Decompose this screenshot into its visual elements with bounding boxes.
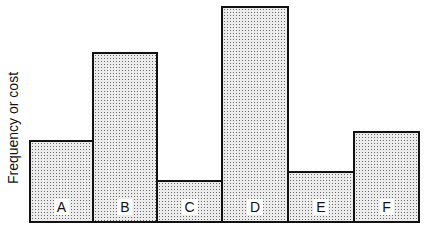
bar-label-b: B <box>117 199 132 215</box>
bar-label-e: E <box>313 199 328 215</box>
bar-label-d: D <box>247 199 263 215</box>
bar-e: E <box>287 171 355 223</box>
bar-chart: Frequency or cost ABCDEF <box>0 0 424 230</box>
bar-d: D <box>221 6 289 223</box>
bar-a: A <box>29 140 94 223</box>
bar-label-f: F <box>379 199 394 215</box>
y-axis-label: Frequency or cost <box>5 72 21 184</box>
bar-b: B <box>92 52 158 223</box>
bar-f: F <box>353 131 420 223</box>
bar-label-a: A <box>54 199 69 215</box>
bar-c: C <box>156 180 223 223</box>
bar-label-c: C <box>181 199 197 215</box>
